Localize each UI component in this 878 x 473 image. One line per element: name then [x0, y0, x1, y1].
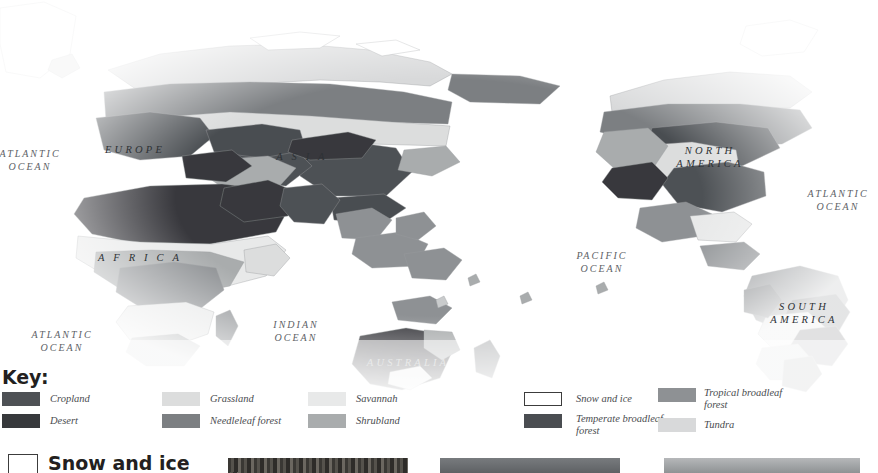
- swatch-temperate-broadleaf-forest: [524, 414, 562, 428]
- map-key: Key: Cropland Desert Grassland Needlelea…: [0, 366, 878, 446]
- swatch-shrubland: [308, 414, 346, 428]
- snow-and-ice-section-swatch: [8, 454, 38, 473]
- legend-label-grassland: Grassland: [210, 393, 320, 405]
- swatch-tundra: [658, 418, 696, 432]
- snow-and-ice-section-heading: Snow and ice: [48, 452, 190, 473]
- legend-label-desert: Desert: [50, 415, 146, 427]
- legend-label-needleleaf-forest: Needleleaf forest: [210, 415, 320, 427]
- swatch-needleleaf-forest: [162, 414, 200, 428]
- key-title: Key:: [2, 366, 48, 388]
- map-canvas: [0, 0, 878, 395]
- swatch-cropland: [2, 392, 40, 406]
- legend-label-shrubland: Shrubland: [356, 415, 456, 427]
- swatch-snow-and-ice: [524, 392, 562, 406]
- swatch-desert: [2, 414, 40, 428]
- photo-thumbnail-1: [228, 458, 408, 473]
- legend-label-savannah: Savannah: [356, 393, 456, 405]
- photo-thumbnail-2: [440, 458, 620, 473]
- swatch-grassland: [162, 392, 200, 406]
- snow-and-ice-section: Snow and ice: [0, 446, 878, 473]
- photo-thumbnail-3: [664, 458, 860, 473]
- swatch-tropical-broadleaf-forest: [658, 388, 696, 402]
- legend-label-tundra: Tundra: [704, 419, 816, 431]
- swatch-savannah: [308, 392, 346, 406]
- legend-label-tropical-broadleaf-forest: Tropical broadleaf forest: [704, 387, 816, 410]
- legend-label-cropland: Cropland: [50, 393, 146, 405]
